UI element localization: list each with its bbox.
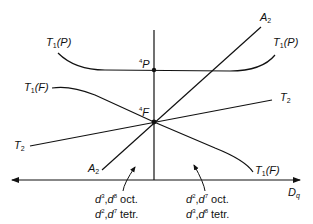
left2-a-sup: 2 [101, 208, 104, 214]
left-region-pointer [123, 167, 135, 191]
a2-bottom-label: A2 [88, 163, 99, 175]
t2-left-sub: 2 [21, 145, 25, 152]
right-region-pointer [194, 165, 205, 191]
t1f-right-label: T1(F) [255, 165, 280, 177]
a2-line [102, 27, 261, 170]
left1-geom: oct. [117, 193, 138, 205]
t2-left-main: T [14, 139, 21, 151]
4p-label: 4P [139, 58, 150, 70]
t2-right-sub: 2 [287, 97, 291, 104]
t1f-right-paren: (F) [266, 164, 280, 176]
a2-top-label: A2 [260, 12, 271, 24]
4f-point [152, 120, 157, 125]
left-region-line2: d2,d7 tetr. [95, 208, 138, 220]
right-region-line2: d3,d8 tetr. [186, 208, 229, 220]
t2-right-label: T2 [280, 92, 291, 104]
right1-geom: oct. [208, 193, 229, 205]
t1p-left-paren: (P) [57, 36, 72, 48]
left1-a-sup: 3 [101, 193, 104, 199]
right-region-line1: d2,d7 oct. [186, 193, 229, 205]
right1-a-sup: 2 [192, 193, 195, 199]
t1p-right-paren: (P) [284, 36, 299, 48]
t1f-left-main: T [24, 81, 31, 93]
t1p-curve [58, 53, 275, 71]
t1f-right-main: T [255, 164, 262, 176]
4p-point [152, 68, 156, 72]
t2-line [30, 100, 272, 146]
t1p-left-label: T1(P) [46, 37, 71, 49]
left-region-line1: d3,d8 oct. [95, 193, 138, 205]
a2-top-sub: 2 [267, 17, 271, 24]
t1p-right-label: T1(P) [273, 37, 298, 49]
t1p-left-main: T [46, 36, 53, 48]
4f-letter: F [142, 106, 149, 118]
t2-left-label: T2 [14, 140, 25, 152]
t2-right-main: T [280, 91, 287, 103]
dq-sub: q [296, 192, 300, 199]
a2-bottom-sub: 2 [95, 168, 99, 175]
orgel-diagram-canvas [0, 0, 313, 224]
4p-letter: P [142, 58, 149, 70]
t1f-left-paren: (F) [35, 81, 49, 93]
t1f-left-label: T1(F) [24, 82, 49, 94]
t1p-right-main: T [273, 36, 280, 48]
right2-a-sup: 3 [192, 208, 195, 214]
4f-label: 4F [139, 106, 149, 118]
t1f-curve [52, 87, 253, 172]
right2-geom: tetr. [208, 208, 229, 220]
dq-main: D [288, 186, 296, 198]
left2-geom: tetr. [117, 208, 138, 220]
dq-axis-label: Dq [288, 187, 300, 199]
